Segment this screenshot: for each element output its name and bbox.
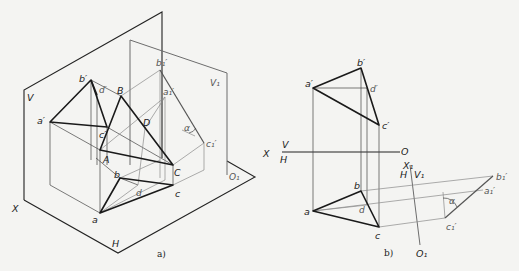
label-B: B (117, 85, 124, 96)
figure-b: X V H O X₁ H V₁ O₁ b′ a′ d′ c′ a b c d b… (262, 57, 507, 259)
drawing-canvas: V H V₁ X O₁ b′ a′ c′ d′ B A C D a b c d … (0, 0, 519, 271)
label-d-prime-b: d′ (370, 84, 378, 94)
label-H: H (112, 238, 119, 249)
label-V-b: V (282, 139, 290, 150)
caption-b: b) (384, 248, 393, 258)
label-b: b (114, 169, 120, 180)
label-O-b: O (401, 146, 409, 157)
label-b-b: b (354, 180, 360, 191)
label-X-b: X (262, 148, 270, 159)
label-O1-b: O₁ (416, 248, 427, 259)
caption-a: a) (157, 249, 166, 259)
label-a: a (92, 214, 98, 225)
projection-lines (50, 70, 204, 213)
top-projection-triangle-b (313, 191, 379, 227)
label-b-prime: b′ (79, 73, 88, 84)
label-A: A (102, 154, 110, 165)
label-alpha: α (184, 123, 190, 133)
label-b1-prime: b₁′ (156, 58, 167, 68)
label-X: X (11, 203, 19, 214)
label-d-b: d (359, 205, 365, 215)
label-V1: V₁ (210, 78, 220, 88)
v-plane-frame (24, 12, 162, 200)
label-c-prime-b: c′ (382, 120, 390, 131)
label-d: d (136, 188, 142, 198)
label-V1-b: V₁ (414, 169, 424, 180)
label-a1-prime-b: a₁′ (484, 186, 495, 196)
label-H1-b: H (400, 169, 407, 180)
v1-plane-frame (130, 40, 227, 175)
label-D: D (143, 117, 150, 128)
label-C: C (174, 167, 181, 178)
label-H-b: H (280, 154, 287, 165)
figure-a: V H V₁ X O₁ b′ a′ c′ d′ B A C D a b c d … (11, 12, 255, 259)
label-a-b: a (304, 206, 310, 217)
label-c: c (175, 188, 181, 199)
label-c1-prime-b: c₁′ (446, 222, 457, 232)
label-a-prime: a′ (37, 115, 46, 126)
label-b-prime-b: b′ (357, 57, 366, 68)
label-a-prime-b: a′ (305, 78, 314, 89)
label-d-prime: d′ (99, 85, 107, 95)
front-projection-triangle-b (313, 68, 379, 125)
label-c-prime: c′ (99, 129, 107, 140)
label-V: V (27, 92, 35, 103)
aux-projection-line (160, 70, 204, 143)
label-alpha-b: α (449, 196, 455, 206)
label-O1: O₁ (229, 172, 240, 182)
label-c-b: c (375, 230, 381, 241)
label-a1-prime: a₁′ (163, 87, 174, 97)
label-b1-prime-b: b₁′ (496, 172, 507, 182)
label-c1-prime: c₁′ (206, 139, 217, 149)
